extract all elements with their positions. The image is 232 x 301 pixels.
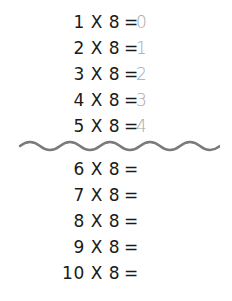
problem-row: 7 X 8 = (0, 183, 232, 207)
wavy-divider (18, 138, 220, 154)
answer: 0 (136, 10, 147, 34)
problem-expression: 1 X 8 (73, 10, 120, 34)
equals-sign: = (124, 183, 138, 207)
answer: 3 (136, 88, 147, 112)
problem-row: 5 X 8 = 4 (0, 114, 232, 138)
answer: 1 (136, 36, 147, 60)
equals-sign: = (124, 209, 138, 233)
problem-expression: 10 X 8 (62, 261, 120, 285)
problem-expression: 9 X 8 (73, 235, 120, 259)
equals-sign: = (124, 261, 138, 285)
problem-row: 1 X 8 = 0 (0, 10, 232, 34)
equals-sign: = (124, 157, 138, 181)
answer: 4 (136, 114, 147, 138)
problem-expression: 5 X 8 (73, 114, 120, 138)
answer: 2 (136, 62, 147, 86)
problem-row: 9 X 8 = (0, 235, 232, 259)
equals-sign: = (124, 235, 138, 259)
problem-row: 4 X 8 = 3 (0, 88, 232, 112)
problem-row: 2 X 8 = 1 (0, 36, 232, 60)
problem-row: 10 X 8 = (0, 261, 232, 285)
problem-row: 8 X 8 = (0, 209, 232, 233)
problem-expression: 8 X 8 (73, 209, 120, 233)
problem-expression: 7 X 8 (73, 183, 120, 207)
problem-expression: 4 X 8 (73, 88, 120, 112)
problem-expression: 2 X 8 (73, 36, 120, 60)
problem-expression: 3 X 8 (73, 62, 120, 86)
problem-row: 6 X 8 = (0, 157, 232, 181)
problem-expression: 6 X 8 (73, 157, 120, 181)
problem-row: 3 X 8 = 2 (0, 62, 232, 86)
